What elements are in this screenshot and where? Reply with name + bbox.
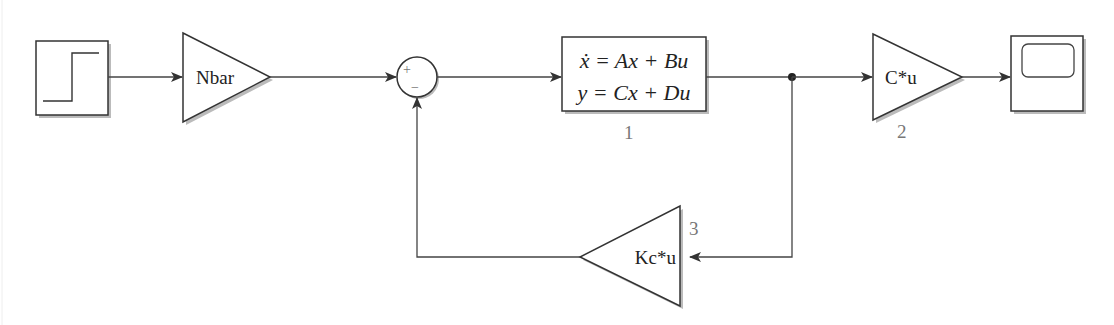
state-equation: ẋ = Ax + Bu	[579, 48, 689, 73]
c-gain-label: C*u	[885, 67, 917, 88]
block-diagram-canvas: Nbar + − ẋ = Ax + Bu y = Cx + Du 1 C*u 2	[0, 0, 1114, 325]
kc-gain-block[interactable]: Kc*u	[580, 206, 683, 309]
step-block[interactable]	[36, 41, 111, 118]
output-equation: y = Cx + Du	[576, 80, 691, 105]
sum-block[interactable]: + −	[397, 57, 439, 99]
scope-screen-icon	[1022, 44, 1074, 77]
signal-kc-gain-to-sum[interactable]	[417, 98, 580, 257]
sum-minus-sign: −	[411, 80, 419, 95]
kc-gain-label: Kc*u	[635, 247, 677, 268]
state-space-block-number: 1	[624, 122, 634, 143]
nbar-gain-block[interactable]: Nbar	[183, 33, 273, 125]
sum-plus-sign: +	[403, 62, 411, 77]
c-gain-block[interactable]: C*u	[873, 34, 965, 123]
scope-block[interactable]	[1011, 36, 1086, 114]
state-space-block[interactable]: ẋ = Ax + Bu y = Cx + Du	[562, 37, 709, 114]
kc-gain-block-number: 3	[689, 218, 699, 239]
nbar-gain-label: Nbar	[196, 67, 235, 88]
c-gain-block-number: 2	[897, 121, 907, 142]
